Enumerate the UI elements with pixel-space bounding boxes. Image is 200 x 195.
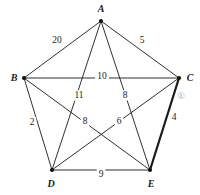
vertex-labels-layer: ABCDE <box>10 3 194 189</box>
annotation-circled-one: ① <box>177 91 185 101</box>
edge-weight-label-de: 9 <box>99 169 104 179</box>
graph-vertex-e <box>148 168 152 172</box>
graph-vertex-a <box>99 19 103 23</box>
graph-edge-ab <box>24 21 101 78</box>
graph-edge-ce <box>150 78 179 170</box>
vertex-label-d: D <box>46 178 54 189</box>
edge-weight-label-ae: 8 <box>123 90 128 100</box>
vertex-label-c: C <box>187 72 194 83</box>
edge-weight-label-ad: 11 <box>74 90 83 100</box>
graph-vertex-b <box>22 76 26 80</box>
edge-weight-label-bd: 2 <box>30 117 35 127</box>
edge-weight-label-ac: 5 <box>140 35 145 45</box>
graph-canvas: 2051011828649 ABCDE ① <box>0 0 200 195</box>
edge-weight-label-be: 8 <box>83 116 88 126</box>
edge-weight-label-cd: 6 <box>117 116 122 126</box>
edge-weight-label-ab: 20 <box>52 35 62 45</box>
graph-edge-ac <box>101 21 179 78</box>
edges-layer <box>24 21 179 170</box>
edge-weight-label-bc: 10 <box>97 71 107 81</box>
edge-weight-labels-layer: 2051011828649 <box>28 35 178 180</box>
edge-weight-label-ce: 4 <box>172 112 177 122</box>
graph-vertex-d <box>50 168 54 172</box>
annotations-layer: ① <box>177 91 185 101</box>
vertex-label-e: E <box>147 178 155 189</box>
graph-figure: 2051011828649 ABCDE ① <box>0 0 200 195</box>
vertex-label-a: A <box>97 3 105 14</box>
vertex-label-b: B <box>10 72 18 83</box>
graph-vertex-c <box>177 76 181 80</box>
